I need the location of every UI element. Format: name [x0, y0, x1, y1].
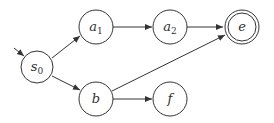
svg-text:e: e — [238, 19, 246, 34]
state-f: f — [153, 82, 187, 116]
initial-arrow — [14, 48, 24, 56]
edge-s0-b — [52, 76, 80, 90]
state-b: b — [79, 82, 113, 116]
state-e-accepting: e — [225, 10, 259, 44]
state-s0: s0 — [21, 51, 53, 83]
svg-text:b: b — [92, 91, 100, 106]
state-diagram: s0 a1 a2 e b f — [0, 0, 274, 123]
state-a1: a1 — [79, 10, 113, 44]
state-a2: a2 — [153, 10, 187, 44]
edge-s0-a1 — [52, 36, 80, 58]
